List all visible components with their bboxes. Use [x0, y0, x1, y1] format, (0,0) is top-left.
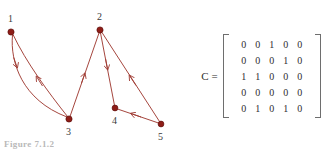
graph-node-label-3: 3	[66, 127, 71, 137]
matrix-cell-r2c1: 0	[237, 52, 251, 68]
matrix-cell-r2c2: 0	[251, 52, 265, 68]
graph-node-label-2: 2	[97, 12, 102, 22]
matrix-cell-r3c3: 0	[265, 68, 279, 84]
graph-node-1	[8, 29, 14, 35]
matrix-cell-r5c5: 0	[293, 100, 307, 116]
node-layer	[8, 27, 164, 127]
edge-2-to-4-arrowhead	[106, 59, 108, 70]
matrix-cell-r2c3: 0	[265, 52, 279, 68]
edge-3-to-1	[13, 35, 68, 117]
graph-node-label-5: 5	[158, 132, 163, 142]
figure-adjacency-matrix: 1 2 3 4 5 Figure 7.1.2 C = 0 0 1 0 0 0 0…	[0, 0, 326, 152]
graph-node-4	[112, 105, 118, 111]
matrix-cell-r1c3: 1	[265, 36, 279, 52]
edge-layer	[12, 33, 159, 124]
matrix-cell-r3c4: 0	[279, 68, 293, 84]
matrix-cell-r4c3: 0	[265, 84, 279, 100]
matrix-right-bracket	[315, 34, 321, 118]
edge-5-to-2-arrowhead	[130, 76, 137, 86]
matrix-cell-r1c2: 0	[251, 36, 265, 52]
matrix-grid: 0 0 1 0 0 0 0 0 1 0 1 1 0 0 0 0 0 0 0 0	[234, 34, 310, 118]
edge-3-to-2-arrowhead	[82, 74, 85, 84]
graph-node-label-4: 4	[112, 116, 117, 126]
matrix-name-label: C =	[201, 70, 217, 82]
graph-node-2	[97, 27, 103, 33]
matrix-cell-r3c2: 1	[251, 68, 265, 84]
matrix-cell-r5c4: 1	[279, 100, 293, 116]
matrix-cell-r1c5: 0	[293, 36, 307, 52]
matrix-cell-r5c1: 0	[237, 100, 251, 116]
matrix-cell-r4c2: 0	[251, 84, 265, 100]
matrix-cell-r2c5: 0	[293, 52, 307, 68]
matrix-cell-r2c4: 1	[279, 52, 293, 68]
graph-node-5	[158, 121, 164, 127]
matrix-cell-r5c3: 0	[265, 100, 279, 116]
matrix-cell-r3c1: 1	[237, 68, 251, 84]
matrix-cell-r1c4: 0	[279, 36, 293, 52]
graph-canvas	[0, 0, 196, 152]
directed-graph-diagram: 1 2 3 4 5	[0, 0, 196, 152]
matrix-cell-r4c5: 0	[293, 84, 307, 100]
matrix-cell-r4c1: 0	[237, 84, 251, 100]
graph-node-label-1: 1	[8, 14, 13, 24]
matrix-cell-r4c4: 0	[279, 84, 293, 100]
matrix-cell-r1c1: 0	[237, 36, 251, 52]
adjacency-matrix: C = 0 0 1 0 0 0 0 0 1 0 1 1 0 0 0 0 0 0	[196, 0, 326, 152]
matrix-left-bracket	[223, 34, 229, 118]
graph-node-3	[66, 116, 72, 122]
figure-caption: Figure 7.1.2	[4, 139, 54, 150]
matrix-cell-r3c5: 0	[293, 68, 307, 84]
edge-5-to-4-arrowhead	[131, 114, 141, 118]
matrix-cell-r5c2: 1	[251, 100, 265, 116]
